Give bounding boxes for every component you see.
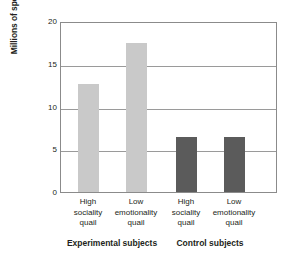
x-category-line-1: Low <box>203 197 265 208</box>
gridline-15 <box>61 66 276 67</box>
y-tick-label-5: 5 <box>37 146 57 154</box>
x-category-line-2: emotionality <box>203 208 265 219</box>
x-category-label-3: Low emotionality quail <box>203 197 265 229</box>
y-tick-label-15: 15 <box>37 61 57 69</box>
plot-area <box>60 22 277 193</box>
y-axis-title: Millions of spermatozoa per ejaculation … <box>0 0 40 62</box>
bar-control-low-emotionality <box>224 137 245 192</box>
group-label-control: Control subjects <box>155 238 265 248</box>
y-tick-label-0: 0 <box>37 189 57 197</box>
y-tick-label-10: 10 <box>37 104 57 112</box>
bar-experimental-low-emotionality <box>126 43 147 192</box>
y-tick-label-20: 20 <box>37 18 57 26</box>
x-category-line-3: quail <box>203 218 265 229</box>
bar-chart-figure: Millions of spermatozoa per ejaculation … <box>0 0 295 269</box>
group-label-experimental: Experimental subjects <box>57 238 167 248</box>
bar-experimental-high-sociality <box>78 84 99 192</box>
bar-control-high-sociality <box>176 137 197 192</box>
